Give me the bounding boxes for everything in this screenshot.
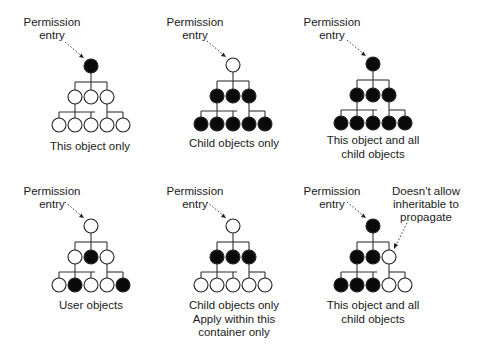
child-node-empty: [68, 90, 82, 104]
grandchild-node-empty: [100, 278, 114, 292]
child-node-filled: [366, 250, 380, 264]
grandchild-node-filled: [398, 116, 412, 130]
child-node-filled: [382, 88, 396, 102]
child-node-filled: [210, 89, 224, 103]
grandchild-node-filled: [210, 117, 224, 131]
grandchild-node-empty: [116, 118, 130, 132]
grandchild-node-empty: [242, 278, 256, 292]
hierarchy-tree: [0, 175, 160, 355]
grandchild-node-empty: [52, 118, 66, 132]
root-node-filled: [366, 219, 380, 233]
grandchild-node-empty: [210, 278, 224, 292]
child-node-filled: [350, 250, 364, 264]
child-node-filled: [226, 250, 240, 264]
panel-user-objects: Permission entry User objects: [0, 175, 160, 355]
grandchild-node-filled: [116, 278, 130, 292]
grandchild-node-filled: [350, 278, 364, 292]
grandchild-node-filled: [258, 117, 272, 131]
grandchild-node-filled: [366, 116, 380, 130]
child-node-filled: [350, 88, 364, 102]
dotted-pointer-arrow-icon: [347, 40, 365, 55]
dotted-pointer-arrow-icon: [65, 202, 83, 217]
child-node-filled: [84, 250, 98, 264]
grandchild-node-filled: [242, 117, 256, 131]
hierarchy-tree: [310, 175, 477, 355]
grandchild-node-filled: [334, 278, 348, 292]
child-node-filled: [242, 250, 256, 264]
child-node-filled: [226, 89, 240, 103]
panel-this-object-only: Permission entry This object only: [0, 0, 160, 175]
grandchild-node-filled: [350, 116, 364, 130]
grandchild-node-empty: [68, 118, 82, 132]
grandchild-node-filled: [194, 117, 208, 131]
grandchild-node-filled: [68, 278, 82, 292]
grandchild-node-empty: [100, 118, 114, 132]
dotted-pointer-arrow-icon: [207, 41, 225, 56]
child-node-empty: [84, 90, 98, 104]
grandchild-node-empty: [84, 278, 98, 292]
child-node-filled: [242, 89, 256, 103]
panel-this-object-and-all-child-objects: Permission entry This object and all chi…: [310, 0, 477, 175]
grandchild-node-empty: [52, 278, 66, 292]
grandchild-node-empty: [398, 278, 412, 292]
grandchild-node-filled: [382, 116, 396, 130]
panel-caption: Child objects only: [164, 137, 304, 151]
child-node-filled: [366, 88, 380, 102]
panel-caption: This object and all child objects: [303, 299, 443, 326]
grandchild-node-empty: [194, 278, 208, 292]
blocked-pointer-arrow-icon: [395, 223, 407, 247]
root-node-empty: [226, 219, 240, 233]
child-node-empty: [382, 250, 396, 264]
panel-child-objects-apply-within-container: Permission entry Child objects only Appl…: [155, 175, 315, 355]
child-node-empty: [100, 250, 114, 264]
child-node-empty: [100, 90, 114, 104]
panel-blocked-inheritance: Permission entry Doesn't allow inheritab…: [310, 175, 477, 355]
grandchild-node-empty: [258, 278, 272, 292]
panel-caption: This object and all child objects: [303, 134, 443, 161]
grandchild-node-empty: [382, 278, 396, 292]
child-node-filled: [210, 250, 224, 264]
dotted-pointer-arrow-icon: [347, 202, 365, 217]
grandchild-node-filled: [226, 117, 240, 131]
grandchild-node-empty: [84, 118, 98, 132]
child-node-empty: [68, 250, 82, 264]
root-node-filled: [84, 59, 98, 73]
grandchild-node-filled: [366, 278, 380, 292]
dotted-pointer-arrow-icon: [207, 202, 225, 217]
grandchild-node-empty: [226, 278, 240, 292]
panel-child-objects-only: Permission entry Child objects only: [155, 0, 315, 175]
root-node-empty: [226, 58, 240, 72]
dotted-pointer-arrow-icon: [65, 42, 83, 57]
root-node-empty: [84, 219, 98, 233]
panel-caption: This object only: [20, 140, 160, 154]
panel-caption: Child objects only Apply within this con…: [164, 299, 304, 340]
root-node-filled: [366, 57, 380, 71]
grandchild-node-filled: [334, 116, 348, 130]
panel-caption: User objects: [21, 299, 161, 313]
